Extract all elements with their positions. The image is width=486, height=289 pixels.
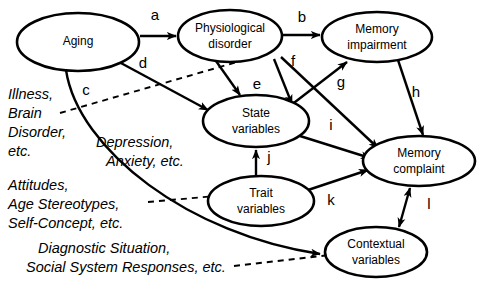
edge-label-b: b (298, 8, 306, 25)
node-memcomp-label-line2: complaint (393, 162, 445, 176)
annotation-diagnostic-line-2: Social System Responses, etc. (26, 259, 226, 275)
edge-i (300, 136, 370, 158)
edge-label-d: d (139, 54, 147, 71)
node-physiological-disorder[interactable]: Physiological disorder (178, 10, 282, 62)
annotation-attitudes: Attitudes, Age Stereotypes, Self-Concept… (7, 177, 123, 231)
annotation-attitudes-line-2: Age Stereotypes, (7, 196, 119, 212)
node-physio-label-line2: disorder (208, 37, 251, 51)
node-contextvar-label-line2: variables (352, 253, 400, 267)
annotation-depression-line-1: Depression, (96, 134, 173, 150)
annotation-attitudes-line-1: Attitudes, (7, 177, 68, 193)
node-aging[interactable]: Aging (17, 13, 139, 71)
leader-diagnostic (234, 255, 330, 266)
node-traitvar-label-line2: variables (237, 202, 285, 216)
annotation-illness-line-2: Brain (8, 105, 42, 121)
node-memimp-label-line1: Memory (355, 22, 398, 36)
node-state-variables[interactable]: State variables (203, 95, 309, 147)
edge-label-l: l (427, 195, 430, 212)
node-memory-impairment[interactable]: Memory impairment (322, 12, 432, 62)
edge-label-a: a (151, 6, 160, 23)
node-physio-label-line1: Physiological (195, 21, 265, 35)
edge-k (308, 170, 368, 190)
edge-label-c: c (82, 81, 90, 98)
edge-d (119, 62, 208, 110)
edge-label-k: k (327, 191, 335, 208)
node-traitvar-label-line1: Trait (249, 186, 273, 200)
node-statevar-label-line1: State (242, 106, 270, 120)
edge-label-j: j (266, 148, 270, 165)
node-contextual-variables[interactable]: Contextual variables (325, 227, 427, 277)
node-memory-complaint[interactable]: Memory complaint (363, 136, 475, 186)
annotation-illness-line-4: etc. (8, 143, 31, 159)
node-contextvar-label-line1: Contextual (347, 237, 404, 251)
node-memimp-label-line2: impairment (347, 38, 407, 52)
node-statevar-label-line2: variables (232, 122, 280, 136)
edge-label-i: i (329, 116, 332, 133)
annotation-attitudes-line-3: Self-Concept, etc. (8, 215, 123, 231)
node-memcomp-label-line1: Memory (397, 146, 440, 160)
edge-label-h: h (412, 83, 420, 100)
node-aging-label-line1: Aging (63, 34, 94, 48)
annotation-depression-line-2: Anxiety, etc. (105, 153, 184, 169)
annotation-illness-line-1: Illness, (8, 86, 53, 102)
path-model-svg: Aging Physiological disorder Memory impa… (0, 0, 486, 289)
annotation-illness-line-3: Disorder, (8, 124, 66, 140)
annotation-diagnostic: Diagnostic Situation, Social System Resp… (26, 240, 226, 275)
leader-attitudes (148, 196, 216, 202)
node-trait-variables[interactable]: Trait variables (208, 176, 314, 226)
edge-label-f: f (291, 52, 296, 69)
edge-label-g: g (337, 73, 345, 90)
annotation-illness: Illness, Brain Disorder, etc. (8, 86, 66, 159)
diagram-canvas: Aging Physiological disorder Memory impa… (0, 0, 486, 289)
edge-l (399, 188, 410, 227)
edge-label-e: e (253, 75, 261, 92)
annotation-diagnostic-line-1: Diagnostic Situation, (38, 240, 170, 256)
